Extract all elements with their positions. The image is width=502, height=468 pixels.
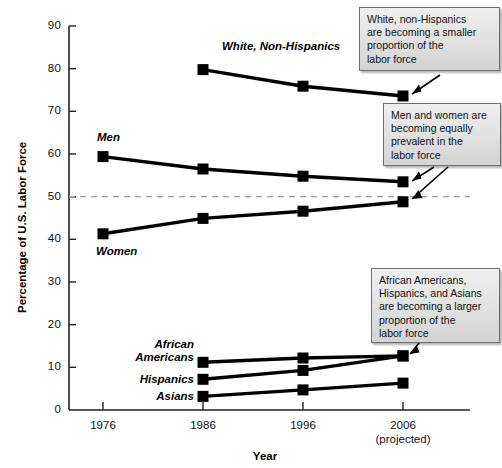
callout-minorities-line3: are becoming a larger <box>379 300 492 313</box>
ytick-label-0: 0 <box>33 403 61 415</box>
xtick-sublabel-projected: (projected) <box>358 433 448 445</box>
callout-minorities-line1: African Americans, <box>379 274 492 287</box>
callout-minorities-line2: Hispanics, and Asians <box>379 287 492 300</box>
ytick-label-90: 90 <box>33 19 61 31</box>
data-point-marker <box>298 81 309 92</box>
minorities-callout: African Americans, Hispanics, and Asians… <box>371 268 500 343</box>
data-point-marker <box>198 357 209 368</box>
series-label-hispanics: Hispanics <box>94 373 194 385</box>
data-point-marker <box>298 353 309 364</box>
data-point-marker <box>398 176 409 187</box>
white-non-hispanics-callout: White, non-Hispanics are becoming a smal… <box>359 7 500 71</box>
series-label-asians: Asians <box>94 390 194 402</box>
series-label-women: Women <box>96 245 137 257</box>
series-asians <box>198 378 409 402</box>
series-label-african-americans-line2: Americans <box>88 351 194 364</box>
y-axis-title: Percentage of U.S. Labor Force <box>16 142 28 313</box>
data-point-marker <box>198 164 209 175</box>
data-point-marker <box>198 374 209 385</box>
ytick-label-80: 80 <box>33 62 61 74</box>
data-point-marker <box>298 384 309 395</box>
x-axis-ticks <box>103 402 403 410</box>
data-point-marker <box>198 391 209 402</box>
series-label-african-americans: African Americans <box>88 338 194 364</box>
data-point-marker <box>298 365 309 376</box>
callout-menwomen-line2: becoming equally <box>391 122 493 135</box>
callout-minorities-line5: labor force <box>379 327 492 340</box>
data-point-marker <box>298 206 309 217</box>
data-point-marker <box>398 350 409 361</box>
series-label-african-americans-line1: African <box>88 338 194 351</box>
ytick-label-20: 20 <box>33 318 61 330</box>
data-point-marker <box>98 151 109 162</box>
callout-menwomen-line1: Men and women are <box>391 109 493 122</box>
ytick-label-60: 60 <box>33 147 61 159</box>
callout-white-line2: are becoming a smaller <box>367 26 492 39</box>
series-label-white-non-hispanics: White, Non-Hispanics <box>222 40 340 52</box>
ytick-label-70: 70 <box>33 104 61 116</box>
xtick-label-1986: 1986 <box>158 419 248 431</box>
men-women-callout: Men and women are becoming equally preva… <box>383 103 501 166</box>
data-point-marker <box>98 228 109 239</box>
data-point-marker <box>398 196 409 207</box>
callout-menwomen-line3: prevalent in the <box>391 135 493 148</box>
callout-menwomen-line4: labor force <box>391 149 493 162</box>
callout-white-line4: labor force <box>367 53 492 66</box>
x-axis-title: Year <box>205 450 325 462</box>
data-point-marker <box>298 171 309 182</box>
ytick-label-40: 40 <box>33 232 61 244</box>
series-label-men: Men <box>97 131 120 143</box>
callout-white-line3: proportion of the <box>367 39 492 52</box>
data-point-marker <box>398 378 409 389</box>
data-point-marker <box>198 213 209 224</box>
series-men <box>98 151 409 187</box>
callout-minorities-line4: proportion of the <box>379 314 492 327</box>
xtick-label-1996: 1996 <box>258 419 348 431</box>
ytick-label-50: 50 <box>33 190 61 202</box>
data-point-marker <box>198 64 209 75</box>
ytick-label-10: 10 <box>33 360 61 372</box>
callout-white-line1: White, non-Hispanics <box>367 13 492 26</box>
ytick-label-30: 30 <box>33 275 61 287</box>
xtick-label-2006: 2006 <box>358 419 448 431</box>
xtick-label-1976: 1976 <box>58 419 148 431</box>
labor-force-line-chart: 90 80 70 60 50 40 30 20 10 0 1976 1986 1… <box>0 0 502 468</box>
series-women <box>98 196 409 239</box>
data-point-marker <box>398 91 409 102</box>
